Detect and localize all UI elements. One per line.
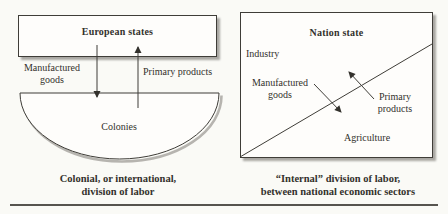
- left-caption: Colonial, or international, division of …: [18, 172, 218, 198]
- manufactured-goods-line2: goods: [40, 74, 64, 85]
- manufactured-goods-right-line1: Manufactured: [252, 77, 308, 88]
- right-caption-line1: “Internal” division of labor,: [276, 173, 400, 184]
- manufactured-goods-line1: Manufactured: [24, 62, 80, 73]
- colonies-label: Colonies: [55, 121, 183, 133]
- european-states-box: European states: [18, 15, 217, 57]
- left-caption-line1: Colonial, or international,: [60, 173, 176, 184]
- right-caption: “Internal” division of labor, between na…: [237, 172, 439, 198]
- figure-canvas: European states Manufactured goods Prima…: [0, 0, 448, 214]
- european-states-label: European states: [82, 26, 153, 37]
- right-caption-line2: between national economic sectors: [261, 186, 415, 197]
- manufactured-goods-label-left: Manufactured goods: [12, 62, 92, 86]
- primary-products-label-right: Primary products: [369, 91, 421, 115]
- primary-products-right-line2: products: [378, 103, 412, 114]
- industry-label: Industry: [246, 48, 279, 60]
- primary-products-right-line1: Primary: [379, 91, 411, 102]
- left-caption-line2: division of labor: [82, 186, 155, 197]
- manufactured-goods-right-line2: goods: [268, 89, 292, 100]
- agriculture-label: Agriculture: [344, 132, 390, 144]
- manufactured-goods-label-right: Manufactured goods: [243, 77, 317, 101]
- nation-state-label: Nation state: [240, 27, 433, 39]
- bottom-rule-divider: [10, 204, 438, 206]
- primary-products-label-left: Primary products: [143, 66, 212, 78]
